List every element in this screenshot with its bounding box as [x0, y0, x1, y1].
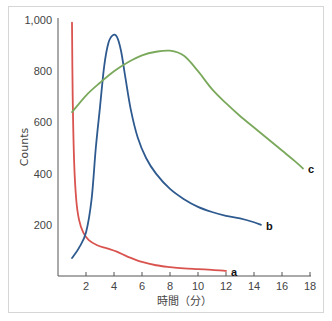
series-group	[72, 23, 303, 271]
y-tick-label: 400	[34, 168, 52, 180]
x-tick-label: 18	[304, 280, 316, 292]
y-tick-label: 200	[34, 219, 52, 231]
y-axis-title: Counts	[18, 128, 31, 167]
x-tick-label: 10	[192, 280, 204, 292]
x-tick-label: 14	[248, 280, 260, 292]
x-tick-label: 8	[167, 280, 173, 292]
x-tick-label: 2	[83, 280, 89, 292]
series-line-b	[72, 35, 261, 258]
x-axis-title: 時間（分）	[157, 295, 212, 308]
line-chart: 24681012141618 2004006008001,000 abc 時間（…	[0, 0, 332, 321]
x-tick-label: 12	[220, 280, 232, 292]
series-line-c	[72, 50, 303, 168]
series-label-a: a	[231, 266, 238, 278]
y-tick-label: 800	[34, 65, 52, 77]
x-ticks: 24681012141618	[83, 272, 316, 292]
y-tick-label: 1,000	[24, 14, 52, 26]
y-ticks: 2004006008001,000	[24, 14, 52, 231]
y-tick-label: 600	[34, 116, 52, 128]
x-tick-label: 16	[276, 280, 288, 292]
series-labels: abc	[231, 163, 314, 277]
x-tick-label: 4	[111, 280, 117, 292]
series-label-b: b	[266, 220, 273, 232]
x-tick-label: 6	[139, 280, 145, 292]
series-label-c: c	[308, 163, 314, 175]
